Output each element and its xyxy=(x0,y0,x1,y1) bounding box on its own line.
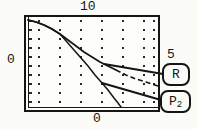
gridline xyxy=(101,20,103,106)
gridline xyxy=(38,20,40,106)
axis-label-left: 0 xyxy=(7,53,15,66)
axis-label-bottom: 0 xyxy=(93,112,101,125)
gridline xyxy=(122,20,124,106)
plot-inner-border xyxy=(28,17,158,108)
callout-p2-label: P xyxy=(169,95,177,108)
callout-p2: P2 xyxy=(160,90,191,113)
gridline xyxy=(80,20,82,106)
figure-canvas: 10 0 0 5 R P2 xyxy=(0,0,197,129)
callout-p2-sub: 2 xyxy=(177,101,182,110)
y-axis-ticks xyxy=(29,20,32,106)
gridline xyxy=(143,20,145,106)
plot-box xyxy=(24,15,160,112)
callout-r: R xyxy=(162,63,190,86)
callout-r-label: R xyxy=(172,68,180,81)
gridline xyxy=(153,20,155,106)
axis-label-right: 5 xyxy=(167,48,175,61)
axis-label-top: 10 xyxy=(80,0,96,13)
gridline xyxy=(59,20,61,106)
